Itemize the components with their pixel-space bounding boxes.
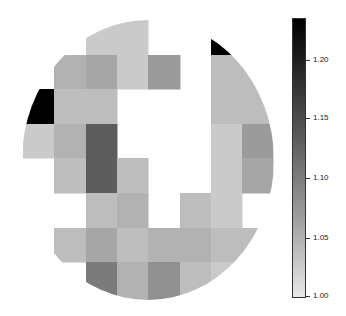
heatmap-cell [86, 55, 118, 90]
heatmap-cell [86, 193, 118, 229]
heatmap-cell [117, 262, 149, 301]
heatmap-cells [23, 20, 274, 301]
heatmap-cell [242, 158, 274, 194]
heatmap-cell [117, 193, 149, 229]
colorbar [292, 18, 306, 298]
heatmap-cell [117, 158, 149, 194]
colorbar-tick [306, 60, 310, 61]
heatmap-cell [211, 89, 243, 125]
heatmap-cell [242, 89, 274, 125]
colorbar-tick-label: 1.00 [313, 291, 329, 300]
heatmap-cell [180, 262, 212, 301]
heatmap-cell [54, 158, 87, 194]
heatmap-cell [23, 89, 55, 125]
heatmap-cell [86, 158, 118, 194]
heatmap-cell [54, 55, 87, 90]
heatmap-cell [180, 228, 212, 263]
heatmap-cell [117, 20, 149, 56]
heatmap-plot [0, 0, 290, 316]
heatmap-cell [23, 124, 55, 159]
colorbar-tick [306, 296, 310, 297]
heatmap-cell [211, 20, 243, 56]
colorbar-tick [306, 178, 310, 179]
heatmap-cell [117, 228, 149, 263]
heatmap-cell [242, 228, 274, 263]
heatmap-cell [211, 228, 243, 263]
heatmap-cell [148, 262, 181, 301]
heatmap-cell [54, 124, 87, 159]
colorbar-tick-label: 1.20 [313, 55, 329, 64]
heatmap-cell [211, 158, 243, 194]
heatmap-cell [211, 55, 243, 90]
heatmap-cell [86, 124, 118, 159]
heatmap-cell [180, 193, 212, 229]
heatmap-cell [86, 228, 118, 263]
colorbar-tick-label: 1.05 [313, 233, 329, 242]
colorbar-tick [306, 118, 310, 119]
heatmap-cell [211, 193, 243, 229]
heatmap-cell [148, 55, 181, 90]
heatmap-cell [54, 228, 87, 263]
heatmap-cell [242, 55, 274, 90]
heatmap-cell [148, 228, 181, 263]
colorbar-tick-label: 1.10 [313, 173, 329, 182]
heatmap-cell [211, 124, 243, 159]
heatmap-cell [242, 20, 274, 56]
heatmap-cell [86, 20, 118, 56]
heatmap-cell [54, 89, 87, 125]
colorbar-tick [306, 238, 310, 239]
colorbar-tick-label: 1.15 [313, 113, 329, 122]
heatmap-cell [117, 55, 149, 90]
heatmap-cell [242, 124, 274, 159]
heatmap-cell [86, 262, 118, 301]
heatmap-cell [211, 262, 243, 301]
heatmap-cell [86, 89, 118, 125]
